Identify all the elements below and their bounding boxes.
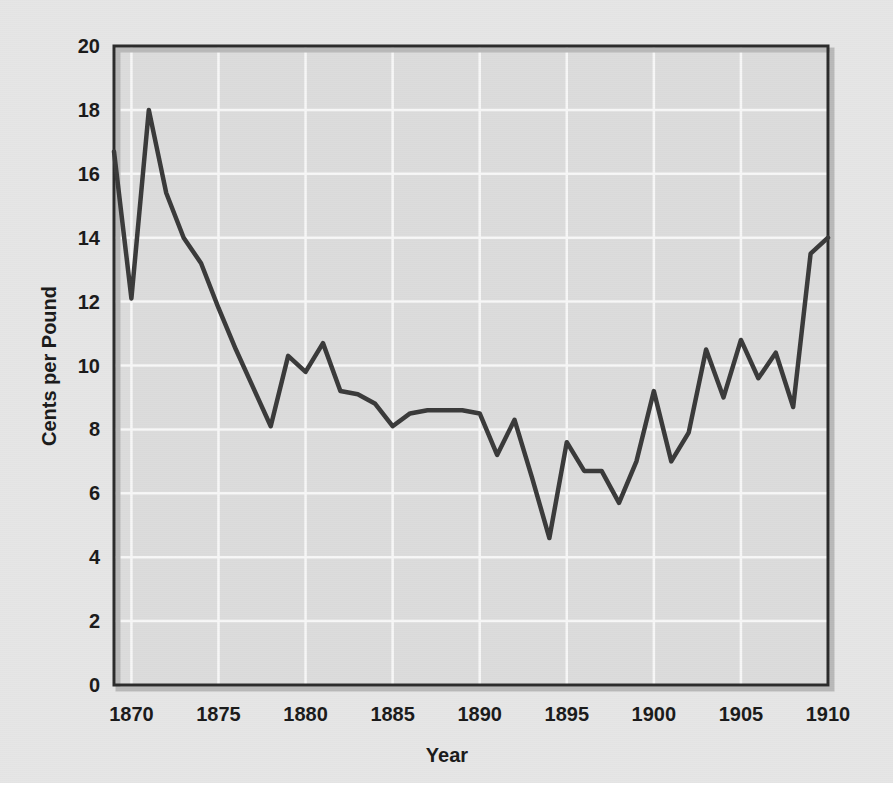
y-tick-label: 14 — [78, 227, 101, 249]
x-tick-label: 1895 — [545, 703, 590, 725]
x-tick-label: 1880 — [283, 703, 328, 725]
x-tick-label: 1885 — [370, 703, 415, 725]
x-axis-tick-labels: 187018751880188518901895190019051910 — [109, 703, 850, 725]
y-tick-label: 12 — [78, 291, 100, 313]
figure-panel: 02468101214161820 1870187518801885189018… — [0, 0, 893, 783]
y-tick-label: 8 — [89, 418, 100, 440]
line-chart: 02468101214161820 1870187518801885189018… — [0, 0, 893, 783]
y-tick-label: 10 — [78, 355, 100, 377]
y-tick-label: 4 — [89, 546, 101, 568]
y-tick-label: 6 — [89, 482, 100, 504]
x-axis-title: Year — [426, 744, 468, 766]
y-tick-label: 16 — [78, 163, 100, 185]
x-tick-label: 1870 — [109, 703, 154, 725]
x-tick-label: 1900 — [632, 703, 677, 725]
y-axis-tick-labels: 02468101214161820 — [78, 35, 101, 696]
page-margin-strip — [0, 783, 893, 805]
y-tick-label: 2 — [89, 610, 100, 632]
y-tick-label: 0 — [89, 674, 100, 696]
y-tick-label: 18 — [78, 99, 100, 121]
y-axis-title: Cents per Pound — [38, 286, 60, 446]
x-tick-label: 1875 — [196, 703, 241, 725]
y-tick-label: 20 — [78, 35, 100, 57]
x-tick-label: 1890 — [457, 703, 502, 725]
x-tick-label: 1905 — [719, 703, 764, 725]
x-tick-label: 1910 — [806, 703, 851, 725]
